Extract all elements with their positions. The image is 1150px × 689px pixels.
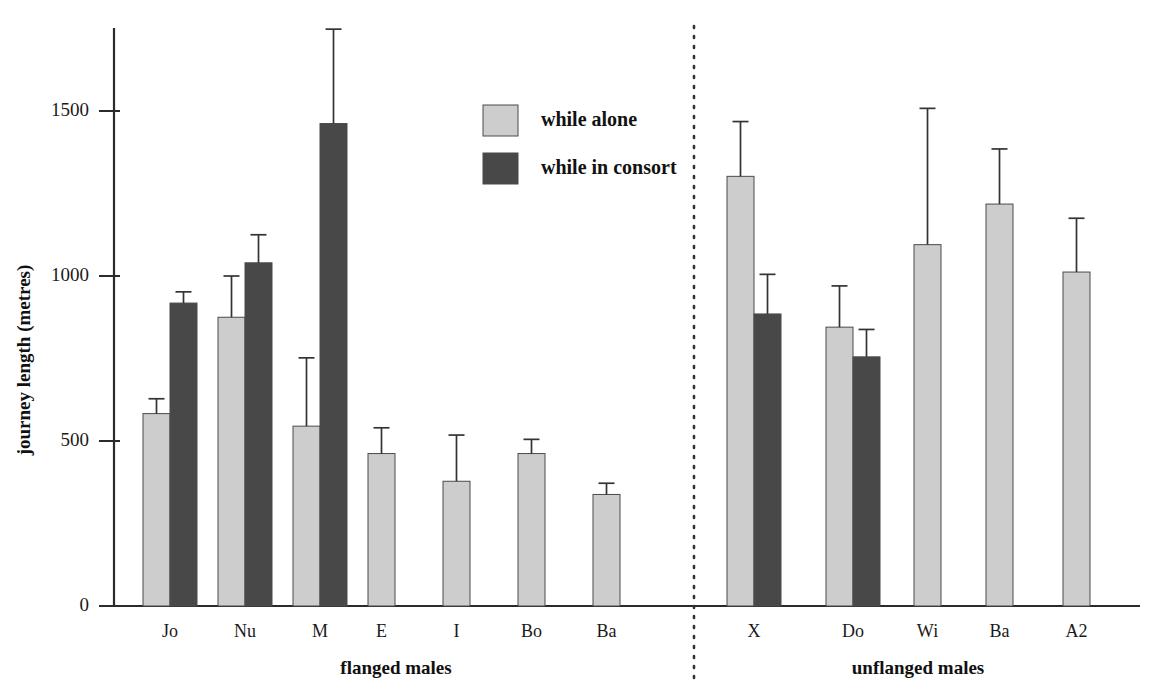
y-axis-ticks (99, 111, 120, 606)
bar-alone-i-4 (443, 481, 470, 606)
x-tick-label-4: I (454, 621, 460, 641)
x-tick-label-1: Nu (234, 621, 256, 641)
bar-alone-ba-6 (593, 494, 620, 606)
error-bars-group (149, 29, 1085, 494)
error-bar (224, 276, 240, 317)
bar-alone-x-7 (727, 176, 754, 606)
bar-consort-do-8 (853, 357, 880, 606)
chart-legend: while alonewhile in consort (483, 105, 677, 184)
x-tick-label-11: A2 (1066, 621, 1088, 641)
error-bar (992, 149, 1008, 204)
x-tick-label-8: Do (842, 621, 864, 641)
legend-swatch-0 (483, 105, 518, 136)
error-bar (599, 483, 615, 494)
category-labels: JoNuMEIBoBaXDoWiBaA2 (162, 621, 1088, 641)
error-bar (449, 435, 465, 481)
group-label-0: flanged males (340, 657, 451, 678)
error-bar (1069, 218, 1085, 272)
error-bar (920, 108, 936, 244)
bar-chart-figure: 050010001500 JoNuMEIBoBaXDoWiBaA2 flange… (0, 0, 1150, 689)
error-bar (859, 329, 875, 356)
bar-consort-m-2 (320, 124, 347, 606)
bar-alone-m-2 (293, 426, 320, 606)
bar-consort-x-7 (754, 314, 781, 606)
error-bar (524, 439, 540, 453)
bar-consort-jo-0 (170, 303, 197, 606)
bar-alone-a2-11 (1063, 272, 1090, 606)
error-bar (149, 399, 165, 414)
bar-alone-e-3 (368, 454, 395, 606)
bar-alone-do-8 (826, 327, 853, 606)
error-bar (374, 428, 390, 454)
bar-alone-jo-0 (143, 414, 170, 606)
x-tick-label-7: X (748, 621, 761, 641)
error-bar (299, 358, 315, 426)
legend-label-1: while in consort (541, 156, 677, 178)
bar-alone-bo-5 (518, 454, 545, 606)
bar-consort-nu-1 (245, 263, 272, 606)
bar-alone-nu-1 (218, 317, 245, 606)
bar-alone-wi-9 (914, 245, 941, 606)
error-bar (326, 29, 342, 123)
legend-label-0: while alone (541, 108, 637, 130)
y-tick-label-500: 500 (61, 429, 90, 450)
y-axis-tick-labels: 050010001500 (51, 99, 89, 615)
error-bar (251, 235, 267, 263)
x-tick-label-0: Jo (162, 621, 178, 641)
y-tick-label-0: 0 (80, 594, 90, 615)
y-tick-label-1500: 1500 (51, 99, 89, 120)
x-tick-label-2: M (312, 621, 328, 641)
group-labels: flanged malesunflanged males (340, 657, 984, 678)
legend-swatch-1 (483, 153, 518, 184)
x-tick-label-5: Bo (521, 621, 542, 641)
error-bar (733, 122, 749, 177)
error-bar (176, 292, 192, 303)
x-tick-label-10: Ba (990, 621, 1010, 641)
group-label-1: unflanged males (852, 657, 985, 678)
x-tick-label-9: Wi (917, 621, 938, 641)
y-axis-title: journey length (metres) (13, 265, 35, 457)
x-tick-label-6: Ba (597, 621, 617, 641)
x-tick-label-3: E (376, 621, 387, 641)
error-bar (832, 286, 848, 327)
bar-alone-ba-10 (986, 204, 1013, 606)
bar-series-group (143, 124, 1090, 606)
y-tick-label-1000: 1000 (51, 264, 89, 285)
chart-canvas: 050010001500 JoNuMEIBoBaXDoWiBaA2 flange… (0, 0, 1150, 689)
error-bar (760, 274, 776, 314)
